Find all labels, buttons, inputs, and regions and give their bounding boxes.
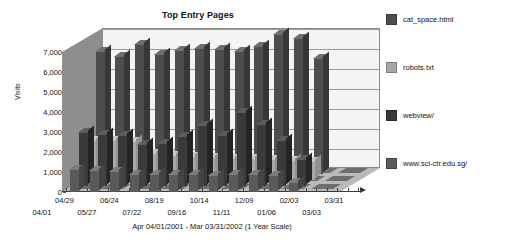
legend-color-swatch [386,158,397,169]
chart-screenshot: Top Entry Pages Visits 01,0002,0003,0004… [0,0,509,246]
bar-side [286,133,292,184]
y-axis-tick-label: 3,000 [43,128,62,137]
bar-face [169,174,178,192]
x-axis-tick-label: 07/22 [122,208,141,217]
legend-label: robots.txt [403,63,434,72]
x-axis-tick-label: 03/03 [302,208,321,217]
bar-face [189,174,198,192]
legend-item[interactable]: cat_space.html [386,14,453,25]
x-axis-tick-label: 05/27 [78,208,97,217]
legend-item[interactable]: robots.txt [386,62,434,73]
x-axis-tick [222,188,223,192]
x-axis-tick-label: 01/06 [257,208,276,217]
bar-face [90,170,99,192]
bar [209,175,218,192]
bar [229,174,238,192]
x-axis-tick-label: 10/14 [190,196,209,205]
x-axis-tick-label: 09/16 [167,208,186,217]
y-axis-tick-label: 2,000 [43,148,62,157]
x-axis-tick [108,188,109,192]
bar-face [269,175,278,192]
y-axis-tick-label: 4,000 [43,108,62,117]
bar-face [150,174,159,192]
bar-face [229,174,238,192]
bar-side [79,162,85,190]
x-axis-tick [66,188,67,192]
chart-title: Top Entry Pages [133,10,263,20]
bar [294,38,303,174]
x-axis-tick [181,188,182,192]
bar [269,175,278,192]
bar-side [306,152,312,184]
bar-side [178,168,184,191]
bar [90,170,99,192]
legend-color-swatch [386,110,397,121]
x-axis-tick [264,188,265,192]
legend-color-swatch [386,62,397,73]
legend-label: webview/ [403,111,434,120]
bar-face [209,175,218,192]
bar [289,182,298,192]
y-axis-tick-label: 6,000 [43,68,62,77]
bar-side [303,31,309,172]
bar-side [139,167,145,190]
x-axis-tick-label: 03/31 [325,196,344,205]
bar [130,174,139,192]
legend-item[interactable]: webview/ [386,110,434,121]
bar-face [110,171,119,192]
x-axis-tick-label: 08/19 [145,196,164,205]
x-axis-tick [87,188,88,192]
bar [189,174,198,192]
x-axis-arrow-icon [360,187,366,193]
bar-side [159,167,165,190]
y-axis-tick-label: 1,000 [43,168,62,177]
x-axis-tick-label: 12/09 [235,196,254,205]
x-axis-tick [243,188,244,192]
legend-color-swatch [386,14,397,25]
x-axis-tick-label: 06/24 [100,196,119,205]
x-axis-tick [316,188,317,192]
bar-side [323,51,329,172]
x-axis-tick-label: 04/29 [55,196,74,205]
bar-side [119,164,125,190]
bar-side [99,163,105,190]
y-axis-tick-labels: 01,0002,0003,0004,0005,0006,0007,000 [24,28,66,196]
x-axis-tick [337,188,338,192]
bar-side [315,154,321,178]
chart-legend: cat_space.htmlrobots.txtwebview/www.sci-… [386,14,506,194]
x-axis-tick [285,188,286,192]
x-axis-tick [358,188,359,192]
bar-face [294,38,303,174]
bar-side [278,168,284,190]
legend-item[interactable]: www.sci-ctr.edu.sg/ [386,158,467,169]
x-axis-tick-label: 02/03 [280,196,299,205]
x-axis-tick [306,188,307,192]
bar [70,169,79,192]
bar-side [198,167,204,190]
y-axis-title: Visits [14,83,21,100]
x-axis-tick-label: 11/11 [213,208,231,217]
y-axis-tick-label: 7,000 [43,48,62,57]
y-axis-tick-label: 5,000 [43,88,62,97]
bar [249,174,258,192]
plot-area [62,28,380,192]
bar-face [70,169,79,192]
chart-subtitle: Apr 04/01/2001 - Mar 03/31/2002 (1 Year … [62,222,362,231]
bar-face [130,174,139,192]
bar-side [258,168,264,191]
bar [110,171,119,192]
x-axis-tick [202,188,203,192]
bar-face [289,182,298,192]
x-axis-tick-label: 04/01 [33,208,52,217]
legend-label: cat_space.html [403,15,453,24]
x-axis-tick [327,188,328,192]
x-axis-tick [348,188,349,192]
bar [150,174,159,192]
bar [169,174,178,192]
legend-label: www.sci-ctr.edu.sg/ [403,159,467,168]
bar-face [249,174,258,192]
bar-series-group [62,28,380,192]
